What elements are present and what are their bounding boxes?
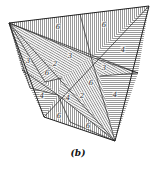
region-label: 4 [65, 94, 70, 102]
region-label: 2 [79, 92, 85, 100]
region-label: 4 [120, 46, 125, 54]
region-label: 4 [39, 92, 44, 100]
region-label: 3 [26, 57, 31, 65]
hatched-polygon-diagram: 664323636444266 [0, 0, 156, 169]
region-label: 3 [102, 64, 107, 72]
region-label: 6 [86, 122, 91, 130]
region-label: 2 [52, 60, 58, 68]
region-label: 6 [89, 79, 94, 87]
region-label: 6 [56, 23, 61, 31]
region-label: 4 [112, 91, 117, 99]
region-label: 6 [45, 69, 50, 77]
region-label: 6 [57, 112, 62, 120]
region-label: 3 [68, 52, 73, 60]
figure-caption: (b) [0, 148, 156, 158]
region-label: 6 [102, 21, 107, 29]
